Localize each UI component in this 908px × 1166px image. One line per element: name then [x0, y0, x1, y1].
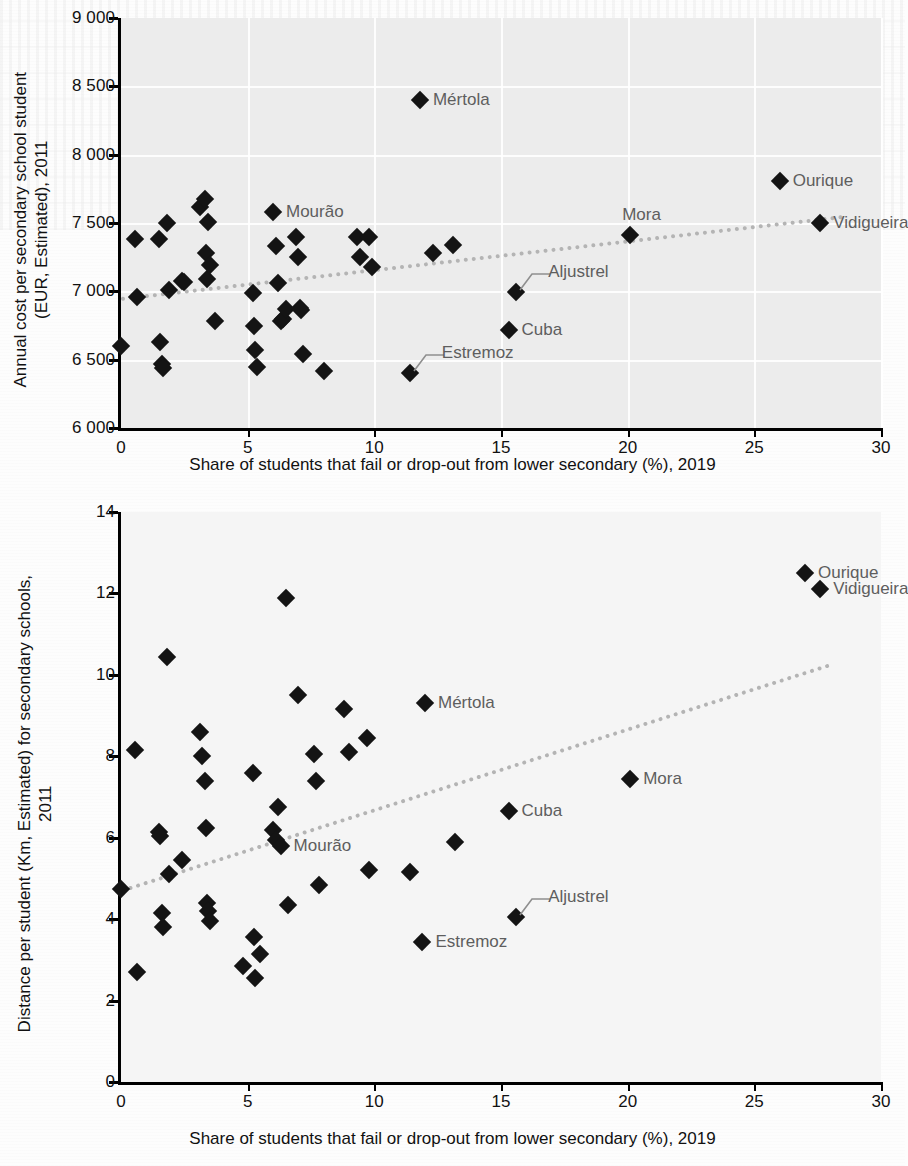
point-label-aljustrel: Aljustrel	[548, 887, 608, 907]
gridline-horizontal	[121, 291, 881, 293]
point-label-mrtola: Mértola	[433, 90, 490, 110]
x-axis-tick-label: 15	[492, 1092, 511, 1112]
point-label-mrtola: Mértola	[438, 693, 495, 713]
gridline-horizontal	[121, 86, 881, 88]
y-axis-title-bottom: Distance per student (Km, Estimated) for…	[15, 519, 56, 1089]
y-axis-tick-label: 7 000	[72, 281, 115, 301]
x-axis-line-top	[118, 428, 881, 431]
y-axis-tick-label: 10	[96, 665, 115, 685]
chart-panel-top: 6 0006 5007 0007 5008 0008 5009 00005101…	[0, 0, 905, 492]
x-axis-tick-label: 10	[365, 1092, 384, 1112]
x-axis-tick	[754, 1082, 756, 1091]
point-label-vidigueira: Vidigueira	[833, 579, 908, 599]
y-axis-tick-label: 8 500	[72, 76, 115, 96]
point-label-ourique: Ourique	[793, 171, 853, 191]
point-label-estremoz: Estremoz	[435, 932, 507, 952]
y-axis-tick-label: 6 000	[72, 418, 115, 438]
x-axis-tick-label: 0	[116, 1092, 125, 1112]
y-axis-tick-label: 9 000	[72, 8, 115, 28]
x-axis-tick	[754, 428, 756, 437]
y-axis-tick-label: 8	[105, 746, 115, 766]
x-axis-line-bottom	[118, 1082, 881, 1085]
x-axis-tick	[374, 1082, 376, 1091]
y-axis-tick-label: 7 500	[72, 213, 115, 233]
x-axis-tick-label: 25	[745, 1092, 764, 1112]
plot-background-bottom	[121, 512, 881, 1082]
y-axis-tick-label: 2	[105, 991, 115, 1011]
point-label-estremoz: Estremoz	[442, 343, 514, 363]
point-label-cuba: Cuba	[522, 320, 563, 340]
x-axis-tick	[881, 1082, 883, 1091]
point-label-mora: Mora	[622, 205, 661, 225]
x-axis-tick	[628, 428, 630, 437]
x-axis-tick	[374, 428, 376, 437]
point-label-mouro: Mourão	[294, 836, 352, 856]
x-axis-tick-label: 30	[872, 1092, 891, 1112]
point-label-mora: Mora	[643, 769, 682, 789]
x-axis-tick	[248, 428, 250, 437]
x-axis-tick	[501, 428, 503, 437]
chart-panel-bottom: 02468101214051015202530MértolaMourãoMora…	[0, 492, 905, 1166]
y-axis-line-bottom	[118, 512, 121, 1082]
y-axis-tick-label: 0	[105, 1072, 115, 1092]
y-axis-title-top: Annual cost per secondary school student…	[11, 25, 52, 435]
point-label-mouro: Mourão	[286, 202, 344, 222]
gridline-horizontal	[121, 155, 881, 157]
y-axis-tick-label: 6	[105, 828, 115, 848]
x-axis-title-top: Share of students that fail or drop-out …	[0, 455, 905, 475]
plot-area-top: 6 0006 5007 0007 5008 0008 5009 00005101…	[121, 18, 881, 428]
x-axis-title-bottom: Share of students that fail or drop-out …	[0, 1129, 905, 1149]
y-axis-tick-label: 6 500	[72, 350, 115, 370]
y-axis-tick-label: 8 000	[72, 145, 115, 165]
x-axis-tick	[501, 1082, 503, 1091]
x-axis-tick	[248, 1082, 250, 1091]
point-label-aljustrel: Aljustrel	[548, 262, 608, 282]
y-axis-tick-label: 12	[96, 583, 115, 603]
point-label-cuba: Cuba	[522, 801, 563, 821]
y-axis-tick-label: 14	[96, 502, 115, 522]
plot-area-bottom: 02468101214051015202530MértolaMourãoMora…	[121, 512, 881, 1082]
x-axis-tick-label: 20	[618, 1092, 637, 1112]
point-label-vidigueira: Vidigueira	[833, 213, 908, 233]
x-axis-tick	[881, 428, 883, 437]
y-axis-tick-label: 4	[105, 909, 115, 929]
x-axis-tick-label: 5	[243, 1092, 252, 1112]
x-axis-tick	[628, 1082, 630, 1091]
